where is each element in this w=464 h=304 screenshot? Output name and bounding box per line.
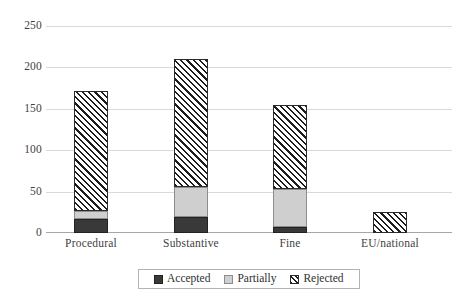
bar-group-substantive[interactable] xyxy=(174,26,208,233)
bar-segment-partially[interactable] xyxy=(74,211,108,219)
legend-item-partially[interactable]: Partially xyxy=(224,273,276,285)
y-tick-label-50: 50 xyxy=(2,186,42,198)
legend-label-partially: Partially xyxy=(237,273,276,285)
bar-group-eu-national[interactable] xyxy=(373,26,407,233)
bar-group-procedural[interactable] xyxy=(74,26,108,233)
y-tick-label-100: 100 xyxy=(2,144,42,156)
bar-segment-rejected[interactable] xyxy=(74,91,108,211)
diagonal-hatch-square-icon xyxy=(290,275,299,284)
bar-segment-accepted[interactable] xyxy=(174,217,208,233)
y-axis: 250 200 150 100 50 0 xyxy=(0,26,42,233)
legend-label-accepted: Accepted xyxy=(167,273,210,285)
legend-label-rejected: Rejected xyxy=(303,273,343,285)
chart-legend: Accepted Partially Rejected xyxy=(138,269,360,289)
bar-group-fine[interactable] xyxy=(273,26,307,233)
stacked-bar-chart: 250 200 150 100 50 0 xyxy=(0,0,464,304)
bar-segment-accepted[interactable] xyxy=(74,219,108,233)
y-tick-label-250: 250 xyxy=(2,20,42,32)
legend-item-accepted[interactable]: Accepted xyxy=(154,273,210,285)
bar-segment-accepted[interactable] xyxy=(273,227,307,233)
y-tick-label-150: 150 xyxy=(2,103,42,115)
bar-segment-partially[interactable] xyxy=(174,187,208,218)
bar-segment-rejected[interactable] xyxy=(373,212,407,234)
bar-segment-partially[interactable] xyxy=(273,189,307,227)
solid-light-gray-square-icon xyxy=(224,275,233,284)
y-tick-label-200: 200 xyxy=(2,62,42,74)
solid-dark-square-icon xyxy=(154,275,163,284)
bar-segment-rejected[interactable] xyxy=(273,105,307,189)
bar-segment-rejected[interactable] xyxy=(174,59,208,187)
plot-area xyxy=(46,26,452,233)
legend-item-rejected[interactable]: Rejected xyxy=(290,273,343,285)
x-tick-label-eu-national: EU/national xyxy=(330,238,450,250)
